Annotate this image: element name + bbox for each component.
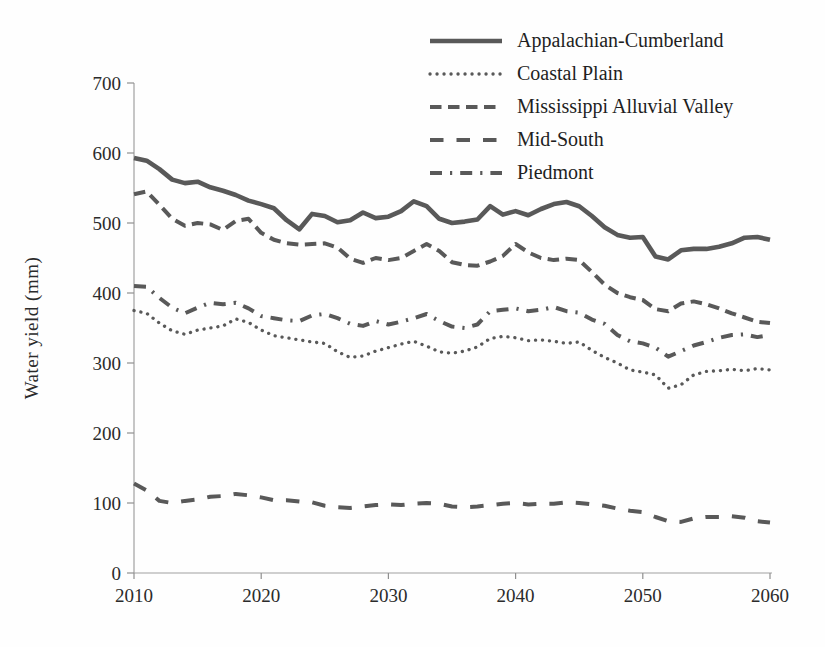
legend-label: Piedmont: [517, 161, 594, 184]
series-line-coastal-plain: [134, 311, 770, 389]
x-tick-label: 2010: [115, 585, 153, 606]
y-tick-label: 200: [93, 423, 122, 444]
water-yield-chart: 0100200300400500600700201020202030204020…: [0, 0, 825, 647]
legend-label: Coastal Plain: [517, 62, 623, 85]
x-tick-label: 2030: [369, 585, 407, 606]
legend-line-sample-icon: [428, 133, 504, 147]
x-tick-label: 2050: [624, 585, 662, 606]
x-tick-label: 2060: [751, 585, 789, 606]
y-axis-title: Water yield (mm): [21, 257, 43, 400]
legend-label: Appalachian-Cumberland: [517, 29, 724, 52]
legend-line-sample-icon: [428, 166, 504, 180]
legend-label: Mid-South: [517, 128, 604, 151]
x-tick-label: 2040: [497, 585, 535, 606]
legend-line-sample-icon: [428, 67, 504, 81]
y-tick-label: 100: [93, 493, 122, 514]
legend-line-sample-icon: [428, 100, 504, 114]
series-line-mid-south: [134, 483, 770, 522]
y-tick-label: 400: [93, 283, 122, 304]
y-tick-label: 700: [93, 73, 122, 94]
legend: Appalachian-Cumberland Coastal Plain Mis…: [428, 24, 733, 189]
x-tick-label: 2020: [242, 585, 280, 606]
legend-line-sample-icon: [428, 34, 504, 48]
y-tick-label: 0: [112, 563, 122, 584]
y-tick-label: 300: [93, 353, 122, 374]
y-tick-label: 500: [93, 213, 122, 234]
legend-item-appalachian-cumberland: Appalachian-Cumberland: [428, 24, 733, 57]
y-tick-label: 600: [93, 143, 122, 164]
legend-item-coastal-plain: Coastal Plain: [428, 57, 733, 90]
legend-item-mid-south: Mid-South: [428, 123, 733, 156]
legend-item-piedmont: Piedmont: [428, 156, 733, 189]
legend-item-mississippi-alluvial-valley: Mississippi Alluvial Valley: [428, 90, 733, 123]
legend-label: Mississippi Alluvial Valley: [517, 95, 733, 118]
